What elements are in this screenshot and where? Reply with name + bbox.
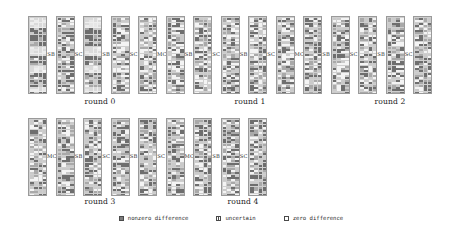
state-block <box>413 16 432 94</box>
state-block <box>221 118 240 196</box>
legend: nonzero difference uncertain zero differ… <box>0 210 462 226</box>
operation-label-mc: MC <box>185 154 194 159</box>
operation-label-sc: SC <box>267 52 276 57</box>
state-block <box>193 118 212 196</box>
operation-label-sc: SC <box>102 154 111 159</box>
state-block <box>193 16 212 94</box>
state-block-wrap: MC <box>166 118 194 196</box>
state-block-wrap: MC <box>28 118 56 196</box>
operation-label-sb: SB <box>185 52 194 57</box>
state-block-wrap <box>413 16 432 94</box>
operation-label-sc: SC <box>350 52 359 57</box>
state-block-wrap: SB <box>166 16 194 94</box>
legend-item-zero: zero difference <box>284 215 344 221</box>
figure-root: SBSCSBSCMCSBSCSBSCMCSBSCSBSC MCSBSCSBSCM… <box>0 0 462 235</box>
round-label-text: round 3 <box>85 197 116 206</box>
state-row-top-track: SBSCSBSCMCSBSCSBSCMCSBSCSBSC <box>28 16 432 94</box>
operation-label-sb: SB <box>377 52 386 57</box>
state-block-wrap: SC <box>138 118 166 196</box>
state-block <box>111 16 130 94</box>
operation-label-mc: MC <box>295 52 304 57</box>
state-block <box>221 16 240 94</box>
round-label-text: round 1 <box>235 97 266 106</box>
state-block-wrap: MC <box>276 16 304 94</box>
state-block-wrap <box>248 118 267 196</box>
state-block-wrap: MC <box>138 16 166 94</box>
operation-label-mc: MC <box>47 154 56 159</box>
state-block <box>83 118 102 196</box>
state-block-wrap: SC <box>248 16 276 94</box>
operation-label-sb: SB <box>75 154 84 159</box>
state-block-wrap: SB <box>193 118 221 196</box>
operation-label-sb: SB <box>212 154 221 159</box>
state-block <box>276 16 295 94</box>
state-block <box>358 16 377 94</box>
state-block <box>28 118 47 196</box>
operation-label-sb: SB <box>102 52 111 57</box>
operation-label-mc: MC <box>157 52 166 57</box>
state-block <box>138 118 157 196</box>
operation-label-sc: SC <box>240 154 249 159</box>
operation-label-sb: SB <box>240 52 249 57</box>
state-block <box>28 16 47 94</box>
state-block <box>248 16 267 94</box>
state-block <box>166 16 185 94</box>
legend-label-zero: zero difference <box>293 215 344 221</box>
operation-label-sb: SB <box>322 52 331 57</box>
state-block-wrap: SB <box>303 16 331 94</box>
operation-label-sc: SC <box>405 52 414 57</box>
legend-swatch-zero-icon <box>284 216 289 221</box>
state-row-bottom-track: MCSBSCSBSCMCSBSC <box>28 118 267 196</box>
operation-label-sc: SC <box>75 52 84 57</box>
state-block <box>386 16 405 94</box>
state-block-wrap: SC <box>221 118 249 196</box>
legend-item-nonzero: nonzero difference <box>119 215 189 221</box>
state-block <box>83 16 102 94</box>
operation-label-sc: SC <box>130 52 139 57</box>
operation-label-sb: SB <box>47 52 56 57</box>
state-block <box>56 118 75 196</box>
state-block-wrap: SC <box>83 118 111 196</box>
state-block-wrap: SC <box>193 16 221 94</box>
round-label-text: round 0 <box>85 97 116 106</box>
state-block-wrap: SC <box>331 16 359 94</box>
operation-label-sc: SC <box>212 52 221 57</box>
state-block <box>331 16 350 94</box>
state-block <box>56 16 75 94</box>
state-block-wrap: SB <box>221 16 249 94</box>
round-label-text: round 2 <box>375 97 406 106</box>
state-block <box>166 118 185 196</box>
state-block <box>138 16 157 94</box>
state-block-wrap: SB <box>83 16 111 94</box>
state-block-wrap: SB <box>111 118 139 196</box>
round-label-text: round 4 <box>228 197 259 206</box>
state-block-wrap: SC <box>386 16 414 94</box>
legend-label-nonzero: nonzero difference <box>128 215 189 221</box>
state-block-wrap: SB <box>358 16 386 94</box>
state-block-wrap: SB <box>56 118 84 196</box>
state-block <box>248 118 267 196</box>
state-block-wrap: SC <box>111 16 139 94</box>
state-block-wrap: SB <box>28 16 56 94</box>
state-block <box>111 118 130 196</box>
legend-label-uncertain: uncertain <box>225 215 255 221</box>
operation-label-sb: SB <box>130 154 139 159</box>
legend-item-uncertain: uncertain <box>216 215 255 221</box>
state-block-wrap: SC <box>56 16 84 94</box>
operation-label-sc: SC <box>157 154 166 159</box>
state-block <box>303 16 322 94</box>
legend-swatch-uncertain-icon <box>216 216 221 221</box>
legend-swatch-nonzero-icon <box>119 216 124 221</box>
